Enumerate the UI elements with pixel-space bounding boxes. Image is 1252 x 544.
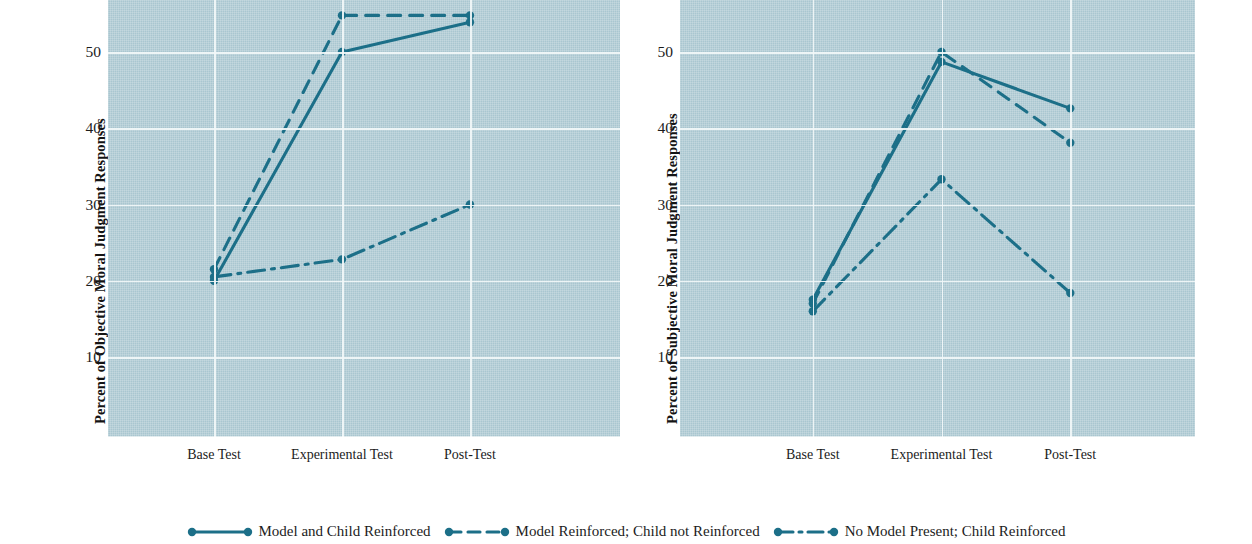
- legend-line-swatch-solid: [187, 524, 253, 540]
- y-axis-tick-label: 10: [658, 349, 674, 365]
- x-axis-tick-label: Experimental Test: [291, 448, 393, 462]
- plot-area-left: 1020304050Base TestExperimental TestPost…: [108, 0, 620, 437]
- x-axis-tick-label: Post-Test: [444, 448, 496, 462]
- gridline-vertical: [214, 0, 216, 437]
- series-lines-left: [108, 0, 620, 437]
- y-axis-tick-label: 20: [658, 273, 674, 289]
- y-axis-tick-label: 50: [658, 44, 674, 60]
- y-axis-tick-label: 40: [658, 121, 674, 137]
- y-axis-tick-label: 50: [86, 44, 102, 60]
- gridline-horizontal: [680, 128, 1195, 130]
- y-axis-tick-label: 20: [86, 273, 102, 289]
- gridline-vertical: [942, 0, 944, 437]
- y-axis-tick-label: 40: [86, 121, 102, 137]
- x-axis-tick-label: Base Test: [786, 448, 840, 462]
- legend-item-solid[interactable]: Model and Child Reinforced: [187, 523, 431, 540]
- y-axis-title-right: Percent of Subjective Moral Judgment Res…: [664, 113, 681, 424]
- legend-label: Model and Child Reinforced: [259, 523, 431, 540]
- gridline-horizontal: [108, 281, 620, 283]
- gridline-horizontal: [108, 128, 620, 130]
- gridline-vertical: [1070, 0, 1072, 437]
- two-panel-line-chart-figure: Percent of Objective Moral Judgment Resp…: [0, 0, 1252, 544]
- y-axis-tick-label: 30: [658, 197, 674, 213]
- series-lines-right: [680, 0, 1195, 437]
- legend-item-dashed[interactable]: Model Reinforced; Child not Reinforced: [444, 523, 760, 540]
- gridline-vertical: [342, 0, 344, 437]
- plot-area-right: 1020304050Base TestExperimental TestPost…: [680, 0, 1195, 437]
- legend-label: No Model Present; Child Reinforced: [845, 523, 1066, 540]
- gridline-horizontal: [680, 52, 1195, 54]
- gridline-horizontal: [108, 52, 620, 54]
- y-axis-tick-label: 10: [86, 349, 102, 365]
- x-axis-tick-label: Base Test: [187, 448, 241, 462]
- gridline-vertical: [813, 0, 815, 437]
- gridline-vertical: [470, 0, 472, 437]
- gridline-horizontal: [108, 357, 620, 359]
- legend-line-swatch-dashed: [444, 524, 510, 540]
- y-axis-tick-label: 30: [86, 197, 102, 213]
- chart-panel-subjective: Percent of Subjective Moral Judgment Res…: [626, 0, 1252, 544]
- x-axis-tick-label: Post-Test: [1044, 448, 1096, 462]
- gridline-horizontal: [680, 205, 1195, 207]
- legend-label: Model Reinforced; Child not Reinforced: [516, 523, 760, 540]
- x-axis-tick-label: Experimental Test: [891, 448, 993, 462]
- legend-item-dash-dot[interactable]: No Model Present; Child Reinforced: [773, 523, 1066, 540]
- chart-panel-objective: Percent of Objective Moral Judgment Resp…: [0, 0, 626, 544]
- gridline-horizontal: [108, 205, 620, 207]
- chart-legend: Model and Child ReinforcedModel Reinforc…: [0, 523, 1252, 540]
- legend-line-swatch-dash-dot: [773, 524, 839, 540]
- gridline-horizontal: [680, 357, 1195, 359]
- gridline-horizontal: [680, 281, 1195, 283]
